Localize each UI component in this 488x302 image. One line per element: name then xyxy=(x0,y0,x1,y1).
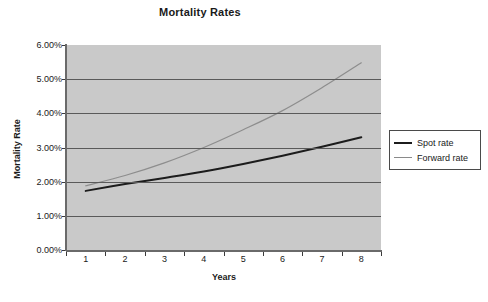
x-axis-tick-mark xyxy=(224,252,225,256)
gridline xyxy=(66,113,381,114)
x-axis-tick-mark xyxy=(105,252,106,256)
x-axis-tick-mark xyxy=(302,252,303,256)
x-axis-tick-label: 1 xyxy=(71,254,101,264)
legend-label-forward-rate: Forward rate xyxy=(417,153,468,163)
x-axis-title: Years xyxy=(66,272,382,282)
x-axis-tick-mark xyxy=(66,252,67,256)
x-axis-tick-mark xyxy=(263,252,264,256)
x-axis-tick-label: 7 xyxy=(307,254,337,264)
x-axis-tick-label: 2 xyxy=(110,254,140,264)
y-axis-tick-label: 2.00% xyxy=(4,177,62,187)
chart-container: Mortality Rates Mortality Rate 0.00%1.00… xyxy=(0,0,488,302)
gridline xyxy=(66,216,381,217)
y-axis-tick-label: 0.00% xyxy=(4,245,62,255)
x-axis-tick-mark xyxy=(145,252,146,256)
x-axis-tick-label: 6 xyxy=(268,254,298,264)
legend-line-icon-spot-rate xyxy=(393,139,413,147)
plot-area xyxy=(66,45,381,250)
legend-item-spot-rate: Spot rate xyxy=(393,135,477,150)
x-axis-tick-mark xyxy=(381,252,382,256)
gridline xyxy=(66,182,381,183)
y-axis-line xyxy=(65,44,67,251)
gridline xyxy=(66,79,381,80)
y-axis-tick-label: 3.00% xyxy=(4,143,62,153)
x-axis-tick-label: 8 xyxy=(346,254,376,264)
y-axis-tick-label: 5.00% xyxy=(4,74,62,84)
x-axis-tick-label: 4 xyxy=(189,254,219,264)
chart-legend: Spot rate Forward rate xyxy=(389,130,481,170)
x-axis-tick-mark xyxy=(342,252,343,256)
y-axis-tick-labels: 0.00%1.00%2.00%3.00%4.00%5.00%6.00% xyxy=(0,0,62,302)
y-axis-tick-label: 1.00% xyxy=(4,211,62,221)
x-axis-tick-label: 3 xyxy=(149,254,179,264)
legend-label-spot-rate: Spot rate xyxy=(417,138,454,148)
legend-item-forward-rate: Forward rate xyxy=(393,150,477,165)
legend-line-icon-forward-rate xyxy=(393,154,413,162)
gridline xyxy=(66,148,381,149)
x-axis-tick-labels: 12345678 xyxy=(66,254,382,270)
x-axis-tick-label: 5 xyxy=(228,254,258,264)
y-axis-tick-label: 6.00% xyxy=(4,40,62,50)
x-axis-tick-mark xyxy=(184,252,185,256)
y-axis-tick-label: 4.00% xyxy=(4,108,62,118)
